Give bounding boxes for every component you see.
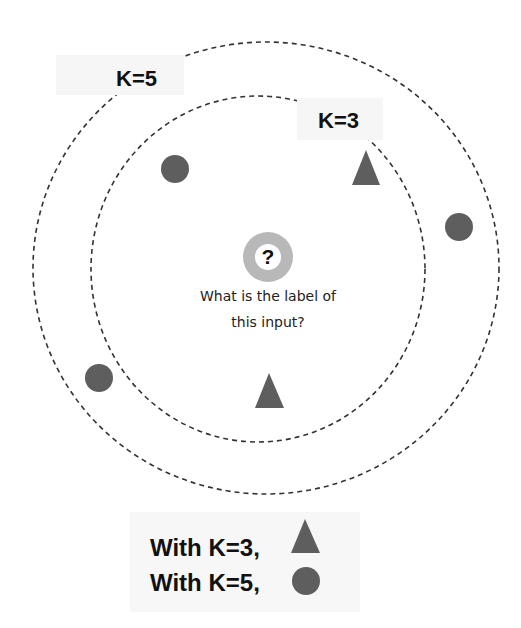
answer-k5-text: With K=5, <box>150 571 260 595</box>
answer-k3-text: With K=3, <box>150 536 260 560</box>
class-circle-point <box>161 155 189 183</box>
class-triangle-point <box>352 150 380 185</box>
query-question-line1: What is the label of <box>168 283 368 309</box>
k3-label: K=3 <box>318 110 359 132</box>
query-question: What is the label of this input? <box>168 283 368 335</box>
question-mark-icon: ? <box>256 244 280 270</box>
answer-box <box>130 512 360 612</box>
class-circle-point <box>445 213 473 241</box>
query-question-line2: this input? <box>168 309 368 335</box>
k5-label: K=5 <box>116 68 157 90</box>
class-circle-point <box>85 364 113 392</box>
class-triangle-point <box>255 373 284 408</box>
